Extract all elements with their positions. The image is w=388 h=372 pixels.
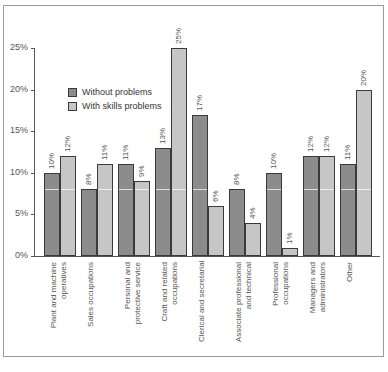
value-label: 11% [343, 145, 352, 160]
bar-without [192, 115, 208, 256]
legend-swatch-without [68, 88, 77, 97]
legend-label-with: With skills problems [82, 101, 162, 111]
y-tick [31, 256, 35, 257]
bar-without [155, 148, 171, 256]
bar-gridline [320, 189, 334, 190]
y-axis [34, 48, 35, 257]
bar-gridline [98, 189, 112, 190]
bar-without [229, 189, 245, 256]
bar-without [303, 156, 319, 256]
y-tick-label: 10% [0, 167, 28, 177]
bar-gridline [357, 189, 371, 190]
value-label: 11% [121, 145, 130, 160]
y-tick-label: 5% [0, 208, 28, 218]
value-label: 1% [285, 232, 294, 244]
legend-label-without: Without problems [82, 87, 152, 97]
bar-gridline [304, 189, 318, 190]
bar-gridline [341, 189, 355, 190]
category-label: Craft and related occupations [160, 262, 180, 342]
legend-item-with: With skills problems [68, 99, 162, 113]
y-tick-label: 15% [0, 125, 28, 135]
bar-with [134, 181, 150, 256]
y-tick [31, 90, 35, 91]
value-label: 10% [269, 153, 278, 169]
category-label: Sales occupations [86, 262, 96, 342]
bar-without [81, 189, 97, 256]
y-tick [31, 131, 35, 132]
legend-swatch-with [68, 102, 77, 111]
bar-with [60, 156, 76, 256]
bar-gridline [45, 189, 59, 190]
bar-without [266, 173, 282, 256]
bar-with [208, 206, 224, 256]
value-label: 8% [232, 174, 241, 186]
bar-with [319, 156, 335, 256]
category-label: Managers and administrators [308, 262, 328, 342]
value-label: 12% [306, 136, 315, 152]
y-tick-label: 25% [0, 42, 28, 52]
bar-with [97, 164, 113, 256]
bar-gridline [172, 189, 186, 190]
bar-without [118, 164, 134, 256]
bar-gridline [61, 189, 75, 190]
bar-without [44, 173, 60, 256]
category-label: Clerical and secretarial [197, 262, 207, 342]
category-label: Professional occupations [271, 262, 291, 342]
bar-with [356, 90, 372, 256]
value-label: 25% [174, 28, 183, 44]
value-label: 9% [137, 166, 146, 178]
y-tick [31, 48, 35, 49]
y-tick-label: 0% [0, 250, 28, 260]
category-label: Personal and protective service [123, 262, 143, 342]
value-label: 12% [63, 136, 72, 152]
value-label: 10% [47, 153, 56, 169]
bar-with [171, 48, 187, 256]
bar-gridline [156, 189, 170, 190]
bar-gridline [193, 189, 207, 190]
bar-gridline [267, 189, 281, 190]
bar-without [340, 164, 356, 256]
legend: Without problems With skills problems [68, 85, 162, 113]
y-tick [31, 173, 35, 174]
bar-gridline [135, 189, 149, 190]
value-label: 20% [359, 70, 368, 86]
bar-with [245, 223, 261, 256]
category-label: Plant and machine operatives [49, 262, 69, 342]
value-label: 12% [322, 136, 331, 152]
category-label: Associate professional and technical [234, 262, 254, 342]
category-label: Other [345, 262, 355, 342]
value-label: 11% [100, 145, 109, 160]
x-axis [34, 256, 380, 257]
value-label: 4% [248, 207, 257, 219]
y-tick-label: 20% [0, 84, 28, 94]
bar-with [282, 248, 298, 256]
value-label: 13% [158, 128, 167, 144]
value-label: 6% [211, 191, 220, 203]
y-tick [31, 214, 35, 215]
value-label: 8% [84, 174, 93, 186]
bar-gridline [119, 189, 133, 190]
value-label: 17% [195, 95, 204, 111]
legend-item-without: Without problems [68, 85, 162, 99]
